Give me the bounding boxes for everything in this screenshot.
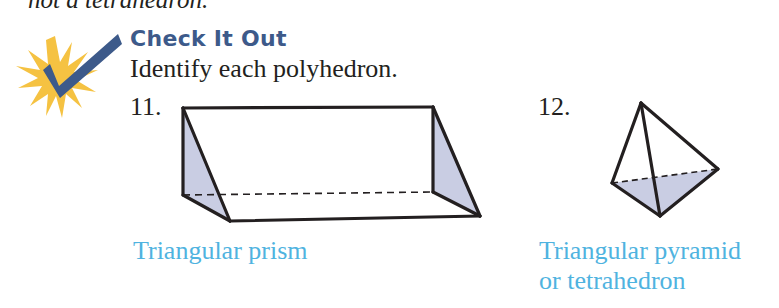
answer-11: Triangular prism [133,236,308,266]
answer-12-line2: or tetrahedron [539,266,686,296]
triangular-pyramid-figure [612,103,718,216]
exercise-number-11: 11. [130,92,162,122]
starburst-icon [16,36,98,118]
instruction-text: Identify each polyhedron. [130,54,398,84]
section-title: Check It Out [130,26,287,51]
exercise-number-12: 12. [538,92,571,122]
answer-12-line1: Triangular pyramid [539,236,741,266]
triangular-prism-figure [183,107,480,221]
